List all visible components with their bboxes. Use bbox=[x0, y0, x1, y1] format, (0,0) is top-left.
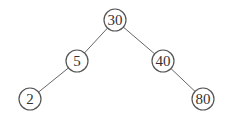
node-label: 5 bbox=[73, 53, 81, 69]
tree-node-2: 2 bbox=[19, 88, 41, 110]
edges bbox=[30, 20, 203, 99]
tree-node-40: 40 bbox=[152, 50, 174, 72]
tree-node-30: 30 bbox=[104, 9, 126, 31]
node-label: 40 bbox=[156, 53, 171, 69]
node-label: 30 bbox=[108, 12, 123, 28]
tree-node-80: 80 bbox=[192, 88, 214, 110]
tree-diagram: 30 5 40 2 80 bbox=[0, 0, 231, 123]
node-label: 80 bbox=[196, 91, 211, 107]
node-label: 2 bbox=[26, 91, 34, 107]
tree-node-5: 5 bbox=[66, 50, 88, 72]
